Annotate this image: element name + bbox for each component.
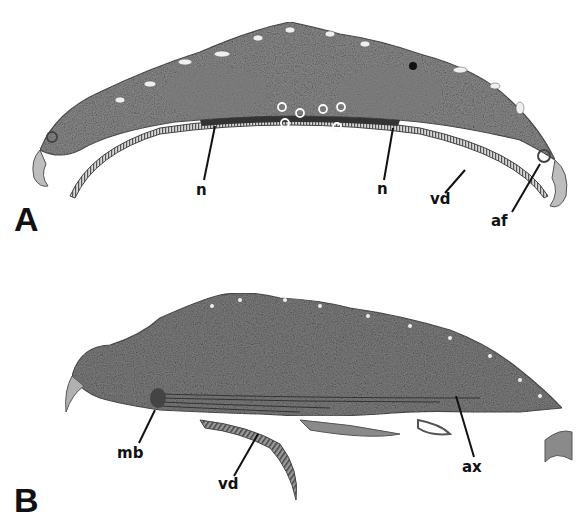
label-axoneme: ax [462,460,482,475]
micrograph-illustration [0,0,584,517]
label-ventral-disc-b: vd [218,477,239,492]
label-ventral-disc-a: vd [430,192,451,207]
panel-a-section [33,22,567,212]
panel-label-a: A [14,202,39,236]
label-anterior-flagellum: af [491,214,508,229]
panel-label-b: B [14,483,39,517]
label-nucleus-left: n [196,183,207,198]
label-nucleus-right: n [377,182,388,197]
label-median-body: mb [117,446,143,461]
micrograph-figure: A n n vd af B mb vd ax [0,0,584,517]
panel-b-section [66,293,572,500]
